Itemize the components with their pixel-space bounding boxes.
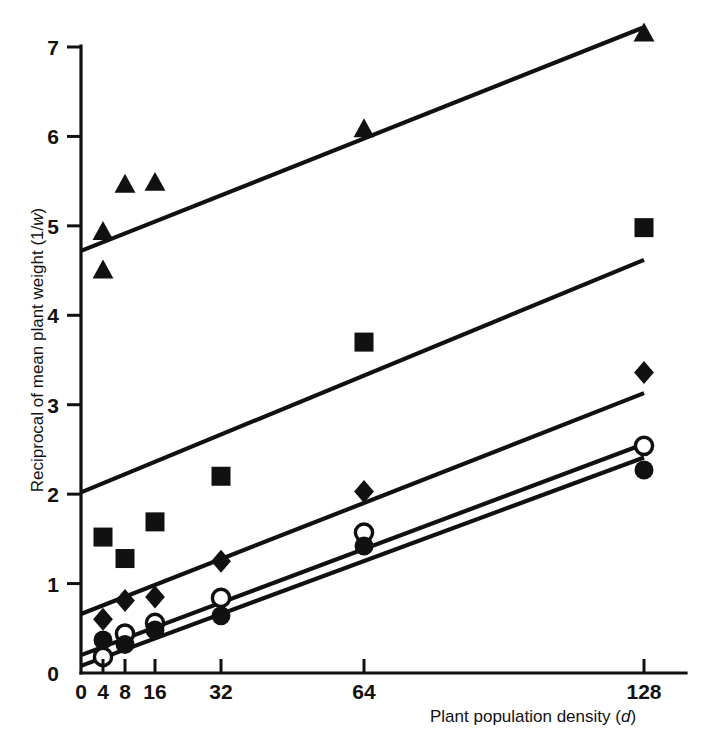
y-tick-label: 2 [47,483,59,506]
data-point-filled-triangle [93,221,114,240]
data-point-filled-triangle [93,260,114,279]
data-markers-group [93,23,655,666]
data-point-filled-square [116,549,135,568]
data-point-filled-diamond [93,608,113,631]
data-point-open-circle [635,437,652,454]
data-point-filled-square [146,512,165,531]
data-point-filled-circle [146,621,165,640]
y-tick-label: 3 [47,394,59,417]
x-tick-label: 8 [119,680,131,703]
x-tick-label: 128 [626,680,661,703]
data-point-filled-circle [116,635,135,654]
data-point-filled-triangle [145,172,166,191]
data-point-filled-square [635,218,654,237]
data-point-open-circle [212,589,229,606]
y-tick-label: 6 [47,125,59,148]
x-tick-label: 64 [352,680,376,703]
x-axis-title: Plant population density (d) [430,707,636,726]
data-point-filled-circle [355,537,374,556]
x-tick-label: 4 [97,680,109,703]
axes-group [67,46,686,673]
data-point-filled-circle [94,630,113,649]
x-tick-label: 32 [209,680,232,703]
x-axis-ticks [103,659,644,673]
y-tick-label: 0 [47,662,59,685]
data-point-filled-square [212,467,231,486]
scatter-plot-canvas: 76543210048163264128 Reciprocal of mean … [0,0,702,744]
chart-figure: 76543210048163264128 Reciprocal of mean … [0,0,702,744]
y-tick-label: 7 [47,36,59,59]
data-point-filled-triangle [115,174,136,193]
y-tick-label: 4 [47,304,59,327]
data-point-filled-diamond [211,550,231,573]
regression-line-filled-square [81,260,644,493]
regression-line-filled-triangle [81,27,644,251]
data-point-filled-circle [212,606,231,625]
x-tick-label: 16 [143,680,166,703]
data-point-filled-diamond [634,361,654,384]
regression-line-filled-diamond [81,393,644,614]
y-axis-ticks [67,47,81,584]
data-point-filled-circle [635,460,654,479]
data-point-filled-triangle [354,118,375,137]
x-tick-label: 0 [75,680,87,703]
data-point-filled-square [94,528,113,547]
y-tick-label: 1 [47,573,59,596]
y-axis-title: Reciprocal of mean plant weight (1/w) [28,208,47,492]
y-tick-label: 5 [47,215,59,238]
data-point-filled-square [355,333,374,352]
